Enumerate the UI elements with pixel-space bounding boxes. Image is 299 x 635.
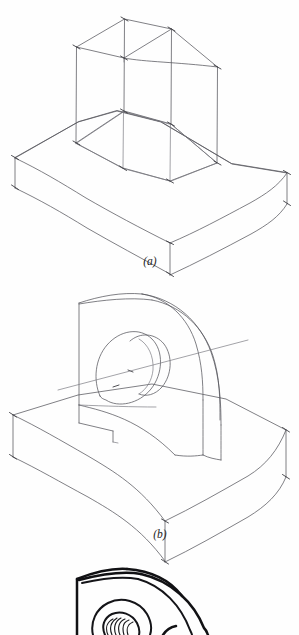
figure-b-arched-upright xyxy=(79,293,221,460)
figure-b-base-slab xyxy=(10,384,290,564)
pictorial-sketching-sequence: (a) xyxy=(0,0,299,635)
figure-b-foot-notch xyxy=(79,405,118,443)
figure-b-cylindrical-hole xyxy=(96,332,170,404)
figure-sheet: (a) xyxy=(0,0,299,635)
figure-b-caption: (b) xyxy=(153,528,167,541)
figure-a-caption: (a) xyxy=(143,255,157,268)
figure-a-upright-prism xyxy=(73,17,221,183)
figure-a-base-slab xyxy=(12,111,291,277)
figure-b-refined: (b) xyxy=(10,293,290,564)
figure-b-axis-line xyxy=(58,340,248,390)
figure-c-final-darkened xyxy=(77,569,208,635)
figure-a-wireframe: (a) xyxy=(12,17,291,277)
